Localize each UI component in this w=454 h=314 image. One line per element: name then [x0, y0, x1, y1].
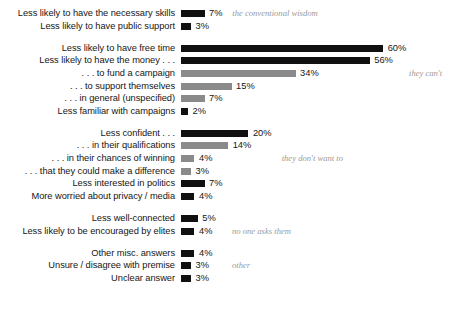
- bar-label: . . . in their qualifications: [0, 140, 175, 151]
- group-annotation: they don't want to: [282, 153, 343, 164]
- bar-value-label: 4%: [199, 226, 212, 237]
- bar-track: 2%: [175, 106, 454, 117]
- bar: [181, 250, 194, 257]
- bar-value-label: 2%: [193, 106, 206, 117]
- bar-track: 20%: [175, 128, 454, 139]
- bar-track: 3%: [175, 260, 454, 271]
- group-annotation: they can't: [409, 68, 442, 79]
- bar-label: . . . to fund a campaign: [0, 68, 175, 79]
- bar: [181, 95, 205, 102]
- bar-label: More worried about privacy / media: [0, 191, 175, 202]
- bar: [181, 215, 198, 222]
- bar-track: 4%: [175, 191, 454, 202]
- bar-label: Less confident . . .: [0, 128, 175, 139]
- bar: [181, 193, 194, 200]
- chart-row: . . . to support themselves15%: [0, 81, 454, 92]
- chart-row: Less likely to have the necessary skills…: [0, 8, 454, 19]
- bar: [181, 57, 370, 64]
- bar: [181, 180, 205, 187]
- chart-row: Less familiar with campaigns2%: [0, 106, 454, 117]
- chart-row: . . . in their qualifications14%: [0, 140, 454, 151]
- bar-value-label: 4%: [199, 248, 212, 259]
- chart-row: Less confident . . .20%: [0, 128, 454, 139]
- bar-value-label: 3%: [196, 21, 209, 32]
- bar-track: 4%: [175, 226, 454, 237]
- bar-value-label: 4%: [199, 191, 212, 202]
- bar-label: Unsure / disagree with premise: [0, 260, 175, 271]
- chart-row: Less likely to be encouraged by elites4%: [0, 226, 454, 237]
- bar-track: 14%: [175, 140, 454, 151]
- bar: [181, 10, 205, 17]
- bar: [181, 142, 228, 149]
- chart-row: Less interested in politics7%: [0, 178, 454, 189]
- bar-label: Less likely to have free time: [0, 43, 175, 54]
- bar: [181, 83, 232, 90]
- bar-value-label: 56%: [374, 55, 393, 66]
- chart-row: Less well-connected5%: [0, 213, 454, 224]
- bar-value-label: 7%: [209, 178, 222, 189]
- bar-label: . . . that they could make a difference: [0, 166, 175, 177]
- bar-label: Other misc. answers: [0, 248, 175, 259]
- bar-label: Less likely to be encouraged by elites: [0, 226, 175, 237]
- bar-value-label: 60%: [388, 43, 407, 54]
- chart-row: Unsure / disagree with premise3%: [0, 260, 454, 271]
- bar-track: 3%: [175, 273, 454, 284]
- bar-track: 5%: [175, 213, 454, 224]
- bar-label: Less likely to have public support: [0, 21, 175, 32]
- bar-value-label: 7%: [209, 93, 222, 104]
- bar-label: . . . in general (unspecified): [0, 93, 175, 104]
- bar-track: 4%: [175, 248, 454, 259]
- bar-value-label: 4%: [199, 153, 212, 164]
- chart-row: . . . in general (unspecified)7%: [0, 93, 454, 104]
- bar-label: Less interested in politics: [0, 178, 175, 189]
- bar: [181, 70, 296, 77]
- bar: [181, 23, 191, 30]
- bar-value-label: 15%: [236, 81, 255, 92]
- bar-track: 3%: [175, 166, 454, 177]
- bar-track: 7%: [175, 93, 454, 104]
- chart-row: Less likely to have the money . . .56%: [0, 55, 454, 66]
- bar-value-label: 3%: [196, 273, 209, 284]
- cut-off-title-sliver: [0, 0, 454, 3]
- bar: [181, 45, 383, 52]
- chart-row: . . . that they could make a difference3…: [0, 166, 454, 177]
- bar-track: 15%: [175, 81, 454, 92]
- group-annotation: the conventional wisdom: [232, 8, 317, 19]
- bar-value-label: 5%: [202, 213, 215, 224]
- bar-label: Less familiar with campaigns: [0, 106, 175, 117]
- bar-label: Less likely to have the money . . .: [0, 55, 175, 66]
- bar-track: 56%: [175, 55, 454, 66]
- bar-label: Less likely to have the necessary skills: [0, 8, 175, 19]
- bar: [181, 262, 191, 269]
- group-annotation: other: [232, 260, 250, 271]
- bar-track: 60%: [175, 43, 454, 54]
- chart-row: Less likely to have public support3%: [0, 21, 454, 32]
- horizontal-bar-chart: Less likely to have the necessary skills…: [0, 0, 454, 314]
- chart-row: Less likely to have free time60%: [0, 43, 454, 54]
- chart-row: Other misc. answers4%: [0, 248, 454, 259]
- bar-value-label: 7%: [209, 8, 222, 19]
- bar-track: 3%: [175, 21, 454, 32]
- bar-value-label: 20%: [253, 128, 272, 139]
- bar: [181, 130, 248, 137]
- bar-label: Unclear answer: [0, 273, 175, 284]
- bar-value-label: 3%: [196, 260, 209, 271]
- group-annotation: no one asks them: [232, 226, 291, 237]
- bar-track: 7%: [175, 178, 454, 189]
- chart-row: More worried about privacy / media4%: [0, 191, 454, 202]
- bar-label: Less well-connected: [0, 213, 175, 224]
- chart-row: . . . to fund a campaign34%: [0, 68, 454, 79]
- chart-row: Unclear answer3%: [0, 273, 454, 284]
- bar: [181, 275, 191, 282]
- bar-value-label: 3%: [196, 166, 209, 177]
- bar: [181, 168, 191, 175]
- bar-value-label: 14%: [233, 140, 252, 151]
- bar-value-label: 34%: [300, 68, 319, 79]
- chart-row: . . . in their chances of winning4%: [0, 153, 454, 164]
- bar: [181, 155, 194, 162]
- bar: [181, 108, 188, 115]
- bar-label: . . . to support themselves: [0, 81, 175, 92]
- bar: [181, 228, 194, 235]
- bar-label: . . . in their chances of winning: [0, 153, 175, 164]
